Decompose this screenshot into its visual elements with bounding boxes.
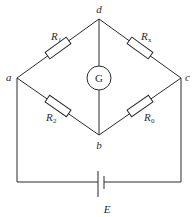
label-r2: R 2 — [45, 111, 57, 125]
label-rx-symbol: R — [140, 30, 148, 42]
label-r1-symbol: R — [50, 30, 58, 42]
galvanometer-icon: G — [87, 66, 111, 90]
wheatstone-bridge-diagram: G d a c b R 1 R x R 2 R 0 E — [0, 0, 194, 217]
battery-label: E — [103, 203, 111, 215]
node-label-d: d — [96, 3, 102, 15]
node-label-a: a — [6, 71, 12, 83]
label-r1-subscript: 1 — [58, 36, 62, 44]
label-r0-symbol: R — [143, 111, 151, 123]
node-label-c: c — [185, 71, 190, 83]
label-r0-subscript: 0 — [151, 117, 155, 125]
label-rx: R x — [140, 30, 152, 44]
label-r1: R 1 — [50, 30, 62, 44]
label-r2-subscript: 2 — [53, 117, 57, 125]
label-rx-subscript: x — [148, 36, 152, 44]
battery-icon — [98, 171, 104, 197]
label-r0: R 0 — [143, 111, 155, 125]
galvanometer-label: G — [95, 72, 103, 84]
label-r2-symbol: R — [45, 111, 53, 123]
node-label-b: b — [96, 139, 102, 151]
